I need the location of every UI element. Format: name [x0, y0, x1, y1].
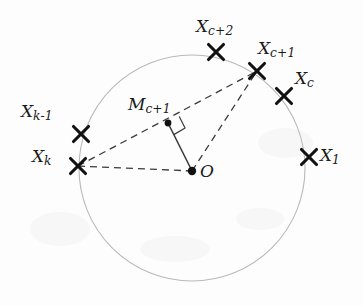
point-label-Xc: Xc	[295, 70, 314, 90]
seg-Xk-O	[78, 166, 192, 171]
label-subscript: c	[307, 76, 314, 90]
label-base: X	[32, 146, 44, 166]
point-label-Xk1: Xk-1	[21, 103, 53, 123]
geometry-figure: Xc+2Xc+1XcX1Xk-1XkMc+1O	[0, 0, 363, 306]
point-label-Xc1: Xc+1	[258, 40, 295, 60]
label-base: M	[128, 94, 145, 114]
marker-cross-X1	[302, 150, 317, 165]
label-subscript: k	[44, 154, 52, 168]
label-subscript: 1	[332, 153, 340, 167]
label-subscript: c+2	[208, 24, 233, 38]
point-label-Mc1: Mc+1	[128, 96, 171, 116]
point-label-X1: X1	[320, 147, 340, 167]
point-label-Xc2: Xc+2	[196, 18, 233, 38]
label-base: X	[320, 145, 332, 165]
label-base: X	[21, 101, 33, 121]
marker-cross-Xk1	[74, 127, 89, 142]
label-base: X	[258, 38, 270, 58]
label-base: X	[196, 16, 208, 36]
marker-dot-Mc1	[165, 120, 172, 127]
marker-dot-O	[188, 167, 196, 175]
marker-cross-Xc1	[250, 64, 265, 79]
label-base: X	[295, 68, 307, 88]
right-angle-marker	[174, 116, 185, 134]
seg-Xk-Mc1-Xc1	[78, 71, 257, 166]
label-subscript: k-1	[33, 109, 52, 123]
point-label-Xk: Xk	[32, 148, 52, 168]
figure-canvas	[0, 0, 363, 306]
point-label-O: O	[200, 163, 214, 180]
label-base: O	[200, 161, 214, 181]
seg-Mc1-O	[168, 123, 192, 171]
label-subscript: c+1	[145, 102, 170, 116]
label-subscript: c+1	[270, 46, 295, 60]
seg-O-Xc1	[192, 71, 257, 171]
